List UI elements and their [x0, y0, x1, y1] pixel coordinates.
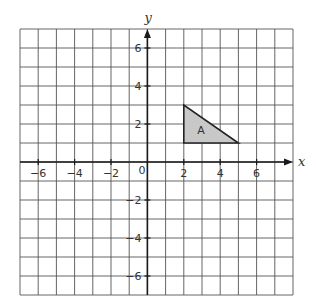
- y-tick-label: −6: [125, 270, 141, 283]
- y-axis-label: y: [143, 10, 152, 25]
- axes: [20, 29, 293, 295]
- y-axis-arrow-icon: [144, 29, 151, 38]
- origin-label: 0: [138, 164, 145, 177]
- coordinate-plane: A −6−4−2246642−2−4−6 x y 0: [0, 0, 316, 305]
- y-tick-label: −4: [125, 232, 141, 245]
- x-tick-label: −2: [103, 167, 119, 180]
- x-tick-label: −4: [66, 167, 82, 180]
- x-tick-label: 6: [253, 167, 260, 180]
- x-tick-label: 4: [217, 167, 224, 180]
- x-axis-label: x: [298, 154, 306, 169]
- shape-label: A: [197, 124, 205, 137]
- x-axis-arrow-icon: [284, 159, 293, 166]
- y-tick-label: 4: [134, 80, 141, 93]
- coordinate-grid-figure: A −6−4−2246642−2−4−6 x y 0: [0, 0, 316, 305]
- y-tick-label: 2: [134, 118, 141, 131]
- y-tick-label: 6: [134, 42, 141, 55]
- x-tick-label: 2: [180, 167, 187, 180]
- x-tick-label: −6: [30, 167, 46, 180]
- y-tick-label: −2: [125, 194, 141, 207]
